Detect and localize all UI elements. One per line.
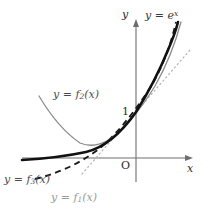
curve-label-f2: y = f2(x) [53, 89, 99, 101]
x-axis-label: x [187, 163, 193, 174]
curve-label-f2-suffix: (x) [84, 88, 99, 101]
curve-label-f1: y = f1(x) [51, 192, 97, 204]
y-tick-label-1: 1 [122, 106, 129, 117]
graph-figure: y x 1 O y = ex y = f2(x) y = f3(x) y = f… [0, 0, 212, 214]
origin-label: O [121, 160, 130, 171]
curve-label-f3: y = f3(x) [4, 174, 50, 186]
curve-label-f1-prefix: y = f [51, 191, 78, 204]
curve-label-f1-suffix: (x) [82, 191, 97, 204]
curve-label-exp-text: y = e [145, 9, 174, 22]
curve-label-exp: y = ex [145, 10, 178, 21]
curve-label-exp-exponent: x [174, 9, 178, 18]
curve-f2 [39, 22, 181, 145]
curve-label-f2-prefix: y = f [53, 88, 80, 101]
curve-label-f3-suffix: (x) [35, 173, 50, 186]
curve-label-f3-prefix: y = f [4, 173, 31, 186]
y-axis-label: y [122, 9, 128, 20]
